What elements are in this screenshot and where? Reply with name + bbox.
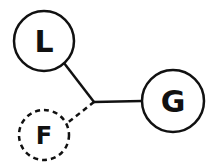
node-l-label: L	[34, 24, 53, 59]
edge-junction-f	[66, 102, 94, 124]
node-l: L	[14, 11, 74, 71]
node-g: G	[142, 70, 204, 132]
edge-l-junction	[64, 63, 94, 102]
node-f-label: F	[36, 122, 52, 150]
edge-junction-g	[94, 101, 142, 102]
node-g-label: G	[161, 84, 186, 119]
diagram-canvas: L G F	[0, 0, 218, 165]
node-f: F	[19, 110, 69, 160]
